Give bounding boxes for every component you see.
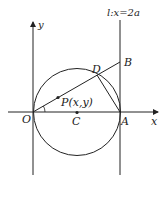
angle-arc: [43, 106, 45, 112]
point-c-label: C: [72, 115, 81, 128]
x-axis-label: x: [151, 115, 158, 128]
point-d-label: D: [91, 63, 101, 76]
point-b-label: B: [123, 56, 132, 69]
line-l-label: l:x=2a: [107, 7, 140, 18]
origin-label: O: [22, 113, 31, 126]
y-axis-label: y: [37, 19, 44, 30]
point-a-label: A: [120, 115, 129, 128]
point-p-dot: [56, 96, 59, 99]
point-p-label: P(x,y): [60, 96, 93, 109]
point-c-dot: [75, 111, 78, 114]
geometry-diagram: y l:x=2a B D P(x,y) O C A x: [0, 0, 165, 199]
